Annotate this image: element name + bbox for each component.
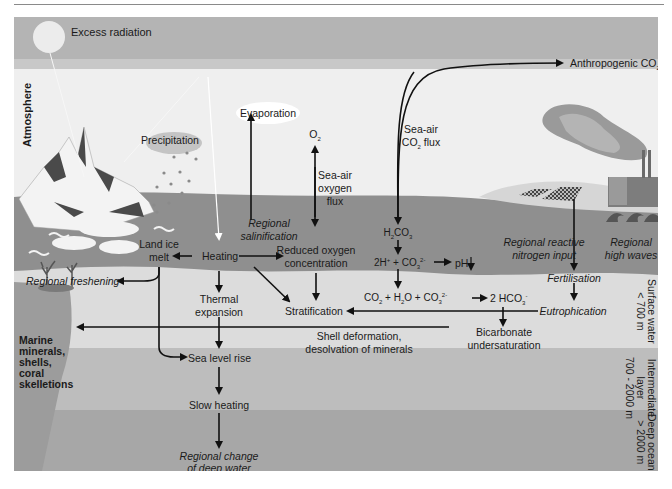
line: 700 - 2000 m — [624, 357, 635, 419]
t: O + CO — [404, 292, 438, 303]
anthropogenic-co2-label: Anthropogenic CO2 — [570, 57, 658, 69]
bicarbonate-undersaturation-label: Bicarbonate undersaturation — [468, 326, 541, 352]
co2-text: CO — [402, 136, 418, 148]
sky-band-light — [14, 59, 658, 69]
line: undersaturation — [468, 339, 541, 352]
slow-heating-label: Slow heating — [189, 399, 249, 411]
line: < 700 m — [635, 279, 646, 344]
line: Shell deformation, — [305, 330, 412, 343]
s: 3 — [417, 264, 420, 270]
flux-text: flux — [421, 136, 440, 148]
shell-deformation-label: Shell deformation, desolvation of minera… — [305, 330, 412, 356]
sky-band — [14, 17, 658, 59]
line: Surface water — [646, 279, 657, 344]
t: + CO — [390, 257, 416, 268]
regional-high-waves-label: Regional high waves — [605, 236, 658, 262]
bicarbonate-product: 2 HCO3- — [490, 292, 527, 304]
line: Bicarbonate — [468, 326, 541, 339]
ocean-climate-diagram: Excess radiation Atmosphere Precipitatio… — [14, 17, 658, 471]
s: 2- — [442, 292, 447, 298]
regional-reactive-nitrogen-label: Regional reactive nitrogen input — [503, 236, 584, 262]
anthropogenic-text: Anthropogenic CO — [570, 57, 656, 69]
marine-minerals-label: Marine minerals, shells, coral skelletio… — [19, 335, 73, 390]
s: 3 — [409, 234, 412, 240]
line: nitrogen input — [503, 249, 584, 262]
line: flux — [318, 195, 352, 208]
t: 2H — [374, 257, 387, 268]
o2-label: O2 — [309, 128, 321, 140]
line: Deep ocean — [646, 414, 657, 471]
thermal-expansion-label: Thermal expansion — [195, 293, 243, 319]
carbonate-equation-1: 2H+ + CO32- — [374, 257, 425, 269]
excess-radiation-label: Excess radiation — [71, 26, 152, 38]
s: 3 — [522, 300, 525, 306]
line: Sea-air — [318, 169, 352, 182]
line: skelletions — [19, 379, 73, 390]
line: Regional change — [180, 450, 259, 462]
intermediate-zone-label: Intermediate layer 700 - 2000 m — [624, 357, 657, 419]
eutrophication-label: Eutrophication — [539, 305, 606, 317]
line: expansion — [195, 306, 243, 319]
deep-ocean-zone-label: Deep ocean > 2000 m — [635, 414, 657, 471]
line: Sea-air — [402, 123, 440, 136]
line: concentration — [277, 257, 356, 270]
o2-sub: 2 — [317, 136, 320, 142]
regional-salinification-label: Regional salinification — [240, 217, 297, 243]
t: CO — [364, 292, 379, 303]
sun-icon — [33, 21, 65, 53]
line: salinification — [240, 230, 297, 243]
line: melt — [139, 251, 179, 264]
regional-freshening-label: Regional freshening — [26, 275, 119, 287]
atmosphere-label: Atmosphere — [21, 83, 33, 147]
line: CO2 flux — [402, 136, 440, 149]
s: 3 — [439, 299, 442, 305]
line: oxygen — [318, 182, 352, 195]
s: 2- — [420, 257, 425, 263]
anthropogenic-sub: 2 — [656, 65, 658, 71]
line: Reduced oxygen — [277, 244, 356, 257]
h2co3-label: H2CO3 — [384, 227, 413, 239]
fertilisation-label: Fertilisation — [547, 272, 601, 284]
line: Intermediate — [646, 357, 657, 419]
line: Regional reactive — [503, 236, 584, 249]
regional-change-label: Regional change of deep water — [180, 450, 259, 471]
t: CO — [394, 227, 409, 238]
heating-label: Heating — [202, 250, 238, 262]
line: Land ice — [139, 238, 179, 251]
sea-air-co2-flux-label: Sea-air CO2 flux — [402, 123, 440, 149]
evaporation-label: Evaporation — [240, 107, 296, 119]
t: + H — [382, 292, 401, 303]
o2-text: O — [309, 128, 317, 140]
ph-label: pH — [455, 257, 468, 269]
t: 2 HCO — [490, 292, 522, 304]
surface-water-zone-label: Surface water < 700 m — [635, 279, 657, 344]
stratification-label: Stratification — [285, 305, 343, 317]
carbonate-equation-2: CO2 + H2O + CO32- — [364, 292, 447, 304]
deep-ocean — [14, 410, 658, 471]
intermediate-layer — [14, 348, 658, 410]
top-rule — [14, 4, 664, 5]
reduced-oxygen-label: Reduced oxygen concentration — [277, 244, 356, 270]
sea-level-rise-label: Sea level rise — [188, 352, 251, 364]
s: - — [525, 293, 527, 299]
precipitation-label: Precipitation — [141, 134, 199, 146]
line: > 2000 m — [635, 414, 646, 471]
line: Regional — [240, 217, 297, 230]
line: layer — [635, 357, 646, 419]
line: Regional — [605, 236, 658, 249]
sea-air-oxygen-flux-label: Sea-air oxygen flux — [318, 169, 352, 208]
land-ice-melt-label: Land ice melt — [139, 238, 179, 264]
line: Thermal — [195, 293, 243, 306]
line: desolvation of minerals — [305, 343, 412, 356]
line: high waves — [605, 249, 658, 262]
line: of deep water — [180, 462, 259, 471]
